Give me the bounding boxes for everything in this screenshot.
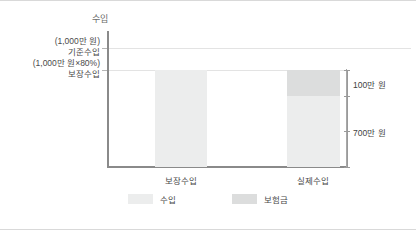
bracket-tick-income-mid [344,131,350,132]
gridline-baseline-income [109,48,411,49]
legend-swatch-insurance-icon [232,194,257,204]
legend-label-insurance: 보험금 [264,193,288,205]
y-axis-title: 수입 [66,12,108,25]
bar-actual-income-income [287,96,340,167]
x-axis-label-covered-income: 보장수입 [151,174,211,186]
chart-legend: 수입 보험금 [0,193,416,205]
x-axis-label-actual-income: 실제수입 [283,174,343,186]
y-tick-label-covered-income-name: 보장수입 [33,69,100,80]
y-tick-label-covered-income: (1,000만 원×80%) 보장수입 [33,58,100,80]
annotation-insurance-amount: 100만 원 [353,78,386,90]
bar-actual-income-insurance [287,70,340,96]
y-tick-label-standard-income: (1,000만 원) 기준수입 [55,36,100,58]
y-axis-line [107,31,109,168]
annotation-income-amount: 700만 원 [353,126,386,138]
bracket-tick-middle [344,96,350,97]
bar-covered-income [155,70,207,167]
y-tick-label-standard-income-value: (1,000만 원) [55,36,100,46]
legend-label-income: 수입 [160,193,176,205]
y-tick-mark-800 [102,70,107,71]
y-tick-label-covered-income-value: (1,000만 원×80%) [33,58,100,68]
bracket-line-insurance [347,70,348,97]
bracket-tick-top [344,70,350,71]
bracket-tick-bottom [344,167,350,168]
bracket-line-income [347,97,348,167]
chart-figure: 수입 (1,000만 원) 기준수입 (1,000만 원×80%) 보장수입 1… [0,0,416,230]
legend-item-insurance: 보험금 [232,193,288,205]
legend-item-income: 수입 [128,193,176,205]
legend-swatch-income-icon [128,194,153,204]
y-tick-label-standard-income-name: 기준수입 [55,47,100,58]
y-tick-mark-1000 [102,48,107,49]
